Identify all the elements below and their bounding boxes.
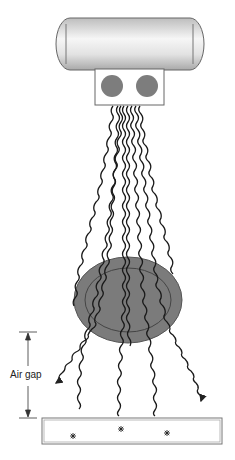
diagram-canvas xyxy=(0,0,235,460)
x-ray-tube xyxy=(56,18,204,70)
collimator-box xyxy=(95,69,164,105)
air-gap-label: Air gap xyxy=(9,369,43,381)
beam-absorbed-left xyxy=(78,106,123,409)
aperture-right xyxy=(136,75,158,97)
image-receptor xyxy=(42,418,222,444)
air-gap-arrow-up-icon xyxy=(26,333,31,340)
air-gap-arrow-down-icon xyxy=(26,410,31,417)
asterisk-icon xyxy=(164,430,170,436)
asterisk-icon xyxy=(70,433,76,439)
asterisk-icon xyxy=(118,426,124,432)
aperture-left xyxy=(101,75,123,97)
